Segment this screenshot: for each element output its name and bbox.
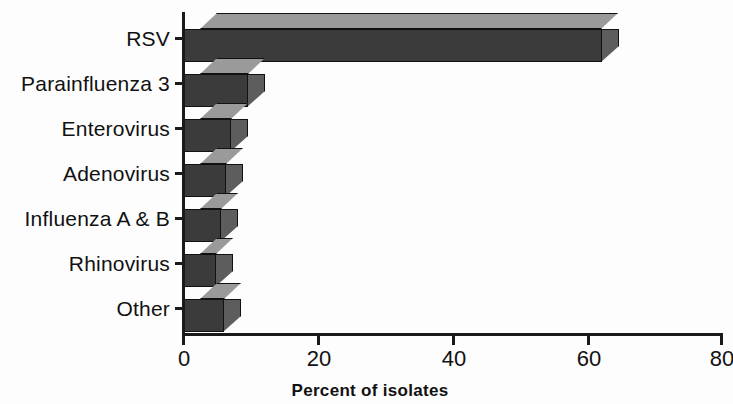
bar-rsv-top <box>200 13 618 29</box>
category-label-rsv: RSV <box>126 28 170 49</box>
category-label-other: Other <box>116 298 170 319</box>
bar-other-front <box>183 299 224 332</box>
bar-enterovirus-front <box>183 119 231 152</box>
bar-adenovirus-front <box>183 164 226 197</box>
bar-rsv-front <box>183 29 602 62</box>
x-tick-60 <box>587 336 590 345</box>
y-axis-line <box>182 12 185 336</box>
bar-other-side <box>223 299 241 332</box>
x-tick-label-60: 60 <box>577 348 601 370</box>
x-tick-label-0: 0 <box>178 348 190 370</box>
bar-rsv-side <box>601 29 619 62</box>
bar-parainfluenza-3-front <box>183 74 248 107</box>
bar-rhinovirus-front <box>183 254 216 287</box>
bar-influenza-a-b-front <box>183 209 221 242</box>
category-axis-labels: RSV Parainfluenza 3 Enterovirus Adenovir… <box>0 0 170 404</box>
x-tick-label-40: 40 <box>442 348 466 370</box>
category-label-adenovirus: Adenovirus <box>63 163 170 184</box>
x-tick-40 <box>452 336 455 345</box>
bar-parainfluenza-3-side <box>247 74 265 107</box>
x-tick-20 <box>317 336 320 345</box>
x-tick-80 <box>720 336 723 345</box>
x-tick-0 <box>182 336 185 345</box>
bar-adenovirus-side <box>225 164 243 197</box>
bar-rhinovirus-side <box>215 254 233 287</box>
category-label-parainfluenza-3: Parainfluenza 3 <box>21 73 170 94</box>
x-tick-label-80: 80 <box>710 348 733 370</box>
category-label-enterovirus: Enterovirus <box>62 118 170 139</box>
category-label-rhinovirus: Rhinovirus <box>69 253 170 274</box>
x-tick-label-20: 20 <box>307 348 331 370</box>
bar-enterovirus-side <box>230 119 248 152</box>
bar-influenza-a-b-side <box>220 209 238 242</box>
category-label-influenza-a-b: Influenza A & B <box>25 208 170 229</box>
bar-chart: RSV Parainfluenza 3 Enterovirus Adenovir… <box>0 0 733 404</box>
x-axis-title: Percent of isolates <box>292 381 449 401</box>
